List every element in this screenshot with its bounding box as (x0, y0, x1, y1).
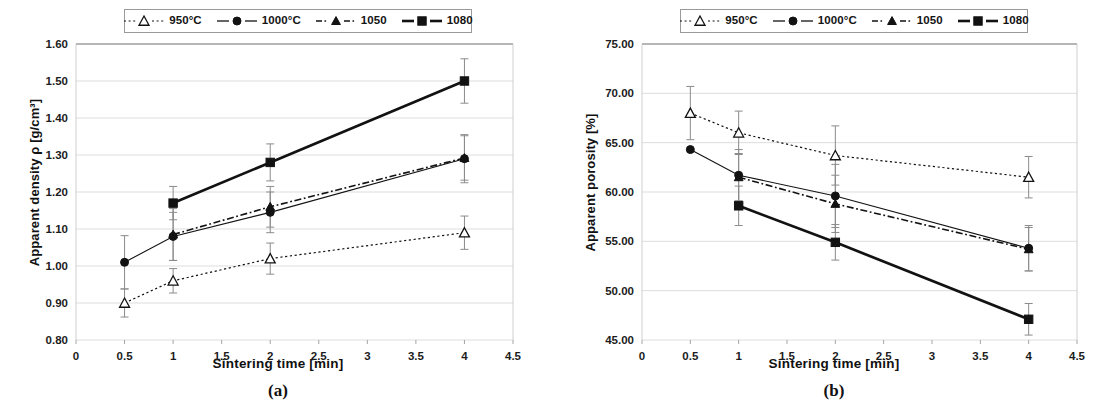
y-tick-label: 45.00 (576, 334, 634, 346)
x-tick-label: 3.5 (972, 350, 988, 362)
x-tick-label: 2 (267, 350, 273, 362)
data-point-filled-triangle (831, 199, 840, 207)
x-tick-label: 1 (735, 350, 741, 362)
y-tick-label: 1.20 (10, 186, 68, 198)
y-tick-label: 65.00 (576, 137, 634, 149)
y-tick-label: 1.50 (10, 75, 68, 87)
data-point-filled-square (169, 199, 177, 207)
y-tick-label: 1.00 (10, 260, 68, 272)
series-line (173, 158, 464, 235)
x-tick-label: 0.5 (117, 350, 133, 362)
y-tick-label: 55.00 (576, 235, 634, 247)
data-point-open-triangle (168, 276, 178, 285)
y-tick-label: 0.80 (10, 334, 68, 346)
data-point-open-triangle (830, 150, 840, 159)
x-tick-label: 2 (832, 350, 838, 362)
data-point-filled-square (1024, 315, 1032, 323)
series-line (690, 150, 1028, 249)
data-point-open-triangle (685, 108, 695, 117)
x-tick-label: 2.5 (876, 350, 892, 362)
data-point-filled-square (734, 202, 742, 210)
x-tick-label: 4.5 (505, 350, 521, 362)
data-point-open-triangle (734, 128, 744, 137)
y-tick-label: 0.90 (10, 297, 68, 309)
x-tick-label: 2.5 (311, 350, 327, 362)
x-tick-label: 3.5 (408, 350, 424, 362)
plot-area-a (0, 0, 556, 413)
data-point-filled-square (831, 238, 839, 246)
data-point-filled-circle (121, 258, 129, 266)
y-tick-label: 50.00 (576, 285, 634, 297)
y-tick-label: 60.00 (576, 186, 634, 198)
y-tick-label: 1.30 (10, 149, 68, 161)
series-line (739, 177, 1029, 249)
x-tick-label: 4 (1025, 350, 1031, 362)
x-tick-label: 1 (170, 350, 176, 362)
y-tick-label: 1.60 (10, 38, 68, 50)
data-point-filled-circle (686, 146, 694, 154)
series-line (173, 81, 464, 203)
y-tick-label: 75.00 (576, 38, 634, 50)
series-line (125, 233, 465, 303)
data-point-filled-square (266, 158, 274, 166)
x-tick-label: 3 (929, 350, 935, 362)
y-tick-label: 1.10 (10, 223, 68, 235)
series-line (739, 206, 1029, 319)
x-tick-label: 4.5 (1069, 350, 1085, 362)
x-tick-label: 0 (73, 350, 79, 362)
panel-b: 950°C1000°C10501080 Apparent porosity [%… (556, 0, 1112, 413)
data-point-open-triangle (265, 254, 275, 263)
x-tick-label: 0.5 (682, 350, 698, 362)
figure-root: 950°C1000°C10501080 Apparent density ρ [… (0, 0, 1113, 413)
x-tick-label: 4 (461, 350, 467, 362)
panel-a: 950°C1000°C10501080 Apparent density ρ [… (0, 0, 556, 413)
x-tick-label: 3 (364, 350, 370, 362)
series-line (125, 159, 465, 263)
y-tick-label: 70.00 (576, 87, 634, 99)
x-tick-label: 0 (639, 350, 645, 362)
y-tick-label: 1.40 (10, 112, 68, 124)
x-tick-label: 1.5 (779, 350, 795, 362)
series-line (690, 113, 1028, 177)
x-tick-label: 1.5 (214, 350, 230, 362)
data-point-filled-square (460, 77, 468, 85)
